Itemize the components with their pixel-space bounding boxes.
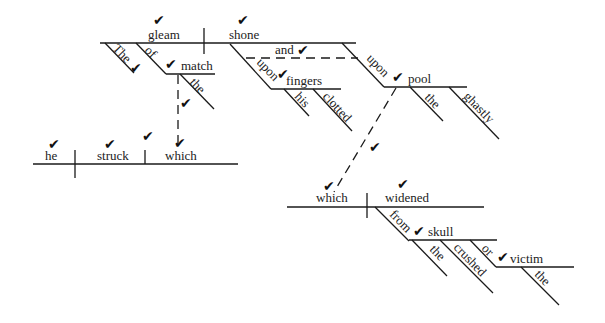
check-icon: ✔ <box>392 69 404 85</box>
main-clause: gleam ✔ shone ✔ The ✔ of match ✔ the ✔ a… <box>100 12 499 192</box>
check-icon: ✔ <box>369 139 381 155</box>
word-match: match <box>181 58 213 73</box>
check-icon: ✔ <box>153 12 165 28</box>
word-widened: widened <box>385 190 430 205</box>
word-or: or <box>479 241 498 260</box>
word-gleam: gleam <box>148 27 180 42</box>
word-the: the <box>422 90 444 112</box>
word-upon: upon <box>364 51 393 80</box>
word-of: of <box>142 43 161 62</box>
word-the: the <box>532 267 554 289</box>
sentence-diagram: gleam ✔ shone ✔ The ✔ of match ✔ the ✔ a… <box>0 0 605 323</box>
check-icon: ✔ <box>397 176 409 192</box>
word-ghastly: ghastly <box>461 89 498 127</box>
word-from: from <box>387 207 415 236</box>
word-fingers: fingers <box>286 73 322 88</box>
check-icon: ✔ <box>174 135 186 151</box>
check-icon: ✔ <box>48 136 60 152</box>
check-icon: ✔ <box>297 42 309 58</box>
check-icon: ✔ <box>130 60 142 76</box>
check-icon: ✔ <box>413 223 425 239</box>
word-shone: shone <box>229 27 260 42</box>
check-icon: ✔ <box>104 136 116 152</box>
check-icon: ✔ <box>180 95 192 111</box>
check-icon: ✔ <box>497 249 509 265</box>
word-victim: victim <box>510 251 543 266</box>
check-icon: ✔ <box>165 56 177 72</box>
check-icon: ✔ <box>237 12 249 28</box>
word-and: and <box>275 42 294 57</box>
check-icon: ✔ <box>142 128 154 144</box>
word-his: his <box>292 89 313 110</box>
word-the: the <box>187 75 209 97</box>
word-clotted: clotted <box>320 89 355 125</box>
word-pool: pool <box>408 71 432 86</box>
relative-clause-he-struck: he ✔ struck ✔ ✔ which ✔ <box>33 128 238 178</box>
word-skull: skull <box>428 224 454 239</box>
check-icon: ✔ <box>323 178 335 194</box>
relative-clause-which-widened: which ✔ widened ✔ from ✔ skull the crush… <box>287 176 574 305</box>
